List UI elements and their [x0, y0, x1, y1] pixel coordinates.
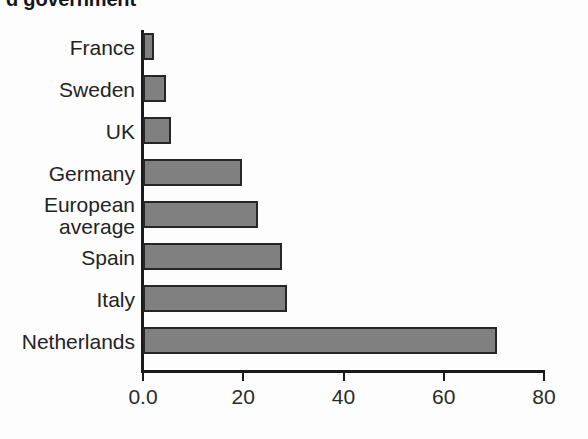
category-label-line1: Italy [96, 288, 135, 311]
category-label-uk: UK [5, 121, 141, 143]
x-tick-label-80: 80 [509, 385, 579, 409]
category-label-european-average: European average [5, 194, 141, 238]
category-label-line1: Sweden [59, 78, 135, 101]
bar-european-average [143, 201, 258, 228]
x-tick-mark-40 [343, 372, 345, 381]
category-label-line1: France [70, 36, 135, 59]
x-tick-mark-20 [242, 372, 244, 381]
x-tick-label-0: 0.0 [108, 385, 178, 409]
category-label-line1: Spain [81, 246, 135, 269]
category-label-line1: European [44, 193, 135, 216]
bar-france [143, 33, 154, 60]
category-label-germany: Germany [5, 163, 141, 185]
x-tick-mark-0 [142, 372, 144, 381]
x-tick-label-40: 40 [309, 385, 379, 409]
category-label-netherlands: Netherlands [5, 331, 141, 353]
x-tick-label-20: 20 [208, 385, 278, 409]
category-label-line1: Netherlands [22, 330, 135, 353]
category-labels: France Sweden UK Germany European averag… [0, 0, 141, 439]
bar-chart-figure: d government France Sweden UK Germany Eu… [0, 0, 588, 439]
category-label-italy: Italy [5, 289, 141, 311]
bar-spain [143, 243, 282, 270]
bar-netherlands [143, 327, 497, 354]
x-tick-mark-60 [443, 372, 445, 381]
bar-sweden [143, 75, 166, 102]
x-tick-label-60: 60 [409, 385, 479, 409]
category-label-spain: Spain [5, 247, 141, 269]
bar-uk [143, 117, 171, 144]
bar-italy [143, 285, 287, 312]
category-label-france: France [5, 37, 141, 59]
bar-germany [143, 159, 242, 186]
category-label-sweden: Sweden [5, 79, 141, 101]
x-tick-mark-80 [543, 372, 545, 381]
category-label-line1: Germany [49, 162, 135, 185]
category-label-line2: average [5, 216, 135, 238]
category-label-line1: UK [106, 120, 135, 143]
